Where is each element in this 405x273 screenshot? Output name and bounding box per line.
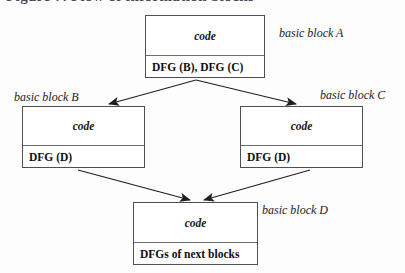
block-b-dfg-cell: DFG (D) <box>23 146 144 167</box>
block-c-code-cell: code <box>241 107 362 146</box>
basic-block-b-caption: basic block B <box>14 90 79 105</box>
edge-b-to-d <box>78 170 190 200</box>
basic-block-a-caption: basic block A <box>279 26 343 41</box>
block-b-code-cell: code <box>23 107 144 146</box>
block-d-code-label: code <box>185 217 207 229</box>
block-a-code-cell: code <box>146 16 264 56</box>
block-d-dfg-cell: DFGs of next blocks <box>134 243 257 264</box>
block-a-dfg-label: DFG (B), DFG (C) <box>152 61 243 73</box>
clipped-heading-text: Figure 7. Flow of information blocks <box>6 0 254 5</box>
edge-a-to-c <box>196 80 296 104</box>
basic-block-c-caption: basic block C <box>320 88 385 103</box>
edge-c-to-d <box>204 170 310 200</box>
block-c-dfg-cell: DFG (D) <box>241 146 362 167</box>
block-d-dfg-label: DFGs of next blocks <box>140 248 239 260</box>
basic-block-b[interactable]: code DFG (D) <box>22 106 145 168</box>
block-b-dfg-label: DFG (D) <box>29 151 72 163</box>
edge-a-to-b <box>109 80 196 104</box>
block-c-dfg-label: DFG (D) <box>247 151 290 163</box>
basic-block-d[interactable]: code DFGs of next blocks <box>133 202 258 265</box>
block-b-code-label: code <box>73 120 95 132</box>
block-c-code-label: code <box>291 120 313 132</box>
basic-block-d-caption: basic block D <box>262 203 328 218</box>
clipped-heading: Figure 7. Flow of information blocks <box>0 0 405 5</box>
diagram-canvas: Figure 7. Flow of information blocks cod… <box>0 0 405 273</box>
basic-block-c[interactable]: code DFG (D) <box>240 106 363 168</box>
block-a-dfg-cell: DFG (B), DFG (C) <box>146 56 264 77</box>
block-a-code-label: code <box>194 30 216 42</box>
block-d-code-cell: code <box>134 203 257 243</box>
basic-block-a[interactable]: code DFG (B), DFG (C) <box>145 15 265 78</box>
